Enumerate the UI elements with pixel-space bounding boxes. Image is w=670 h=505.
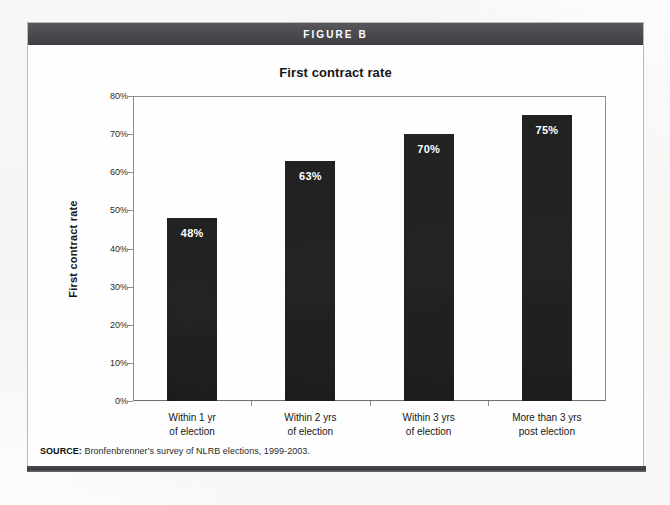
y-axis-tick-label: 40%	[110, 244, 128, 254]
x-axis-category-labels: Within 1 yrof electionWithin 2 yrsof ele…	[133, 411, 606, 451]
x-axis-category-label: Within 1 yrof election	[133, 411, 251, 439]
figure-footer-rule	[27, 466, 646, 472]
bar-value-label: 75%	[522, 124, 572, 136]
source-note: SOURCE: Bronfenbrenner's survey of NLRB …	[40, 446, 310, 456]
y-axis-tick-label: 30%	[110, 282, 128, 292]
bar-slot: 70%	[370, 96, 488, 401]
bar[interactable]: 63%	[285, 161, 335, 401]
x-axis-tick-mark	[488, 401, 489, 406]
bar-slot: 48%	[133, 96, 251, 401]
x-axis-category-label: More than 3 yrspost election	[488, 411, 606, 439]
y-axis-tick-label: 10%	[110, 358, 128, 368]
x-axis-tick-mark	[370, 401, 371, 406]
x-axis-category-label-line: of election	[133, 425, 251, 439]
bar-value-label: 48%	[167, 227, 217, 239]
bar[interactable]: 48%	[167, 218, 217, 401]
x-axis-tick-mark	[251, 401, 252, 406]
x-axis-category-label-line: Within 2 yrs	[251, 411, 369, 425]
x-axis-category-label: Within 3 yrsof election	[370, 411, 488, 439]
y-axis-tick-label: 80%	[110, 91, 128, 101]
bar[interactable]: 70%	[404, 134, 454, 401]
bar[interactable]: 75%	[522, 115, 572, 401]
x-axis-category-label-line: Within 3 yrs	[370, 411, 488, 425]
figure-container: FIGURE B First contract rate First contr…	[27, 22, 644, 467]
source-text: Bronfenbrenner's survey of NLRB election…	[82, 446, 310, 456]
y-axis-title: First contract rate	[66, 96, 80, 401]
bar-value-label: 63%	[285, 170, 335, 182]
y-axis-tick-label: 50%	[110, 205, 128, 215]
x-axis-category-label-line: of election	[370, 425, 488, 439]
y-axis-tick-label: 70%	[110, 129, 128, 139]
bar-slot: 63%	[251, 96, 369, 401]
figure-label: FIGURE B	[303, 29, 368, 40]
y-axis-tick-label: 20%	[110, 320, 128, 330]
x-axis-category-label: Within 2 yrsof election	[251, 411, 369, 439]
x-axis-category-label-line: More than 3 yrs	[488, 411, 606, 425]
x-axis-category-label-line: of election	[251, 425, 369, 439]
x-axis-tick-marks	[133, 401, 606, 406]
y-axis-tick-labels: 80%70%60%50%40%30%20%10%0%	[98, 96, 128, 401]
source-prefix: SOURCE:	[40, 446, 82, 456]
x-axis-category-label-line: post election	[488, 425, 606, 439]
y-axis-tick-label: 0%	[115, 396, 128, 406]
bar-slot: 75%	[488, 96, 606, 401]
y-axis-tick-label: 60%	[110, 167, 128, 177]
bar-series: 48%63%70%75%	[133, 96, 606, 401]
bar-value-label: 70%	[404, 143, 454, 155]
x-axis-category-label-line: Within 1 yr	[133, 411, 251, 425]
figure-header-band: FIGURE B	[28, 23, 643, 45]
chart-title: First contract rate	[28, 65, 643, 80]
